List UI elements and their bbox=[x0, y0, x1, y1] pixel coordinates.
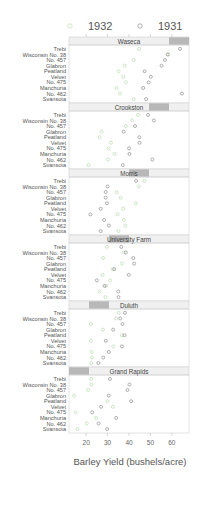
strip-label: University Farm bbox=[107, 236, 151, 244]
strip-label: Morris bbox=[120, 170, 138, 177]
point-1931 bbox=[133, 262, 136, 265]
point-1931 bbox=[117, 296, 120, 299]
panel-box bbox=[69, 111, 189, 169]
point-1932 bbox=[73, 394, 76, 397]
point-1932 bbox=[138, 47, 141, 50]
point-1932 bbox=[90, 362, 93, 365]
point-1932 bbox=[90, 350, 93, 353]
strip-shade bbox=[149, 103, 169, 110]
point-1932 bbox=[117, 311, 120, 314]
point-1932 bbox=[106, 400, 109, 403]
point-1931 bbox=[100, 405, 103, 408]
point-1931 bbox=[164, 59, 167, 62]
variety-label: Svansota bbox=[43, 426, 67, 432]
point-1931 bbox=[122, 130, 125, 133]
panel-box bbox=[69, 45, 189, 103]
point-1931 bbox=[99, 207, 102, 210]
legend-1932-label: 1932 bbox=[88, 20, 112, 32]
point-1931 bbox=[115, 416, 118, 419]
strip-label: Crookston bbox=[115, 104, 144, 111]
point-1931 bbox=[130, 400, 133, 403]
point-1931 bbox=[120, 245, 123, 248]
point-1931 bbox=[102, 356, 105, 359]
dot-plot-chart: 1932 1931 WasecaTrebiWisconsin No. 38No.… bbox=[0, 0, 199, 508]
point-1931 bbox=[126, 389, 129, 392]
point-1931 bbox=[128, 383, 131, 386]
point-1931 bbox=[107, 394, 110, 397]
point-1931 bbox=[106, 185, 109, 188]
point-1931 bbox=[89, 213, 92, 216]
point-1931 bbox=[108, 377, 111, 380]
point-1932 bbox=[104, 296, 107, 299]
panels: WasecaTrebiWisconsin No. 38No. 457Glabro… bbox=[22, 34, 189, 433]
point-1931 bbox=[180, 92, 183, 95]
point-1932 bbox=[89, 323, 92, 326]
point-1931 bbox=[121, 323, 124, 326]
point-1932 bbox=[119, 92, 122, 95]
point-1931 bbox=[142, 86, 145, 89]
strip-label: Grand Rapids bbox=[110, 368, 149, 376]
point-1931 bbox=[99, 230, 102, 233]
point-1932 bbox=[115, 317, 118, 320]
strip-shade bbox=[89, 301, 109, 308]
point-1931 bbox=[121, 164, 124, 167]
point-1931 bbox=[107, 350, 110, 353]
point-1931 bbox=[127, 273, 130, 276]
point-1932 bbox=[123, 64, 126, 67]
point-1932 bbox=[124, 224, 127, 227]
point-1931 bbox=[91, 411, 94, 414]
point-1931 bbox=[106, 428, 109, 431]
x-tick-label: 20 bbox=[83, 439, 91, 446]
point-1932 bbox=[95, 416, 98, 419]
point-1931 bbox=[97, 422, 100, 425]
point-1932 bbox=[105, 245, 108, 248]
point-1931 bbox=[123, 311, 126, 314]
point-1932 bbox=[98, 290, 101, 293]
variety-label: Svansota bbox=[43, 360, 67, 366]
variety-label: Svansota bbox=[43, 162, 67, 168]
panel-box bbox=[69, 177, 189, 235]
point-1932 bbox=[117, 230, 120, 233]
point-1932 bbox=[111, 405, 114, 408]
point-1932 bbox=[87, 389, 90, 392]
point-1932 bbox=[102, 257, 105, 260]
point-1932 bbox=[115, 86, 118, 89]
point-1931 bbox=[134, 125, 137, 128]
point-1931 bbox=[120, 345, 123, 348]
point-1931 bbox=[95, 279, 98, 282]
variety-label: Svansota bbox=[43, 96, 67, 102]
point-1932 bbox=[85, 422, 88, 425]
point-1931 bbox=[138, 141, 141, 144]
point-1931 bbox=[143, 70, 146, 73]
point-1932 bbox=[134, 202, 137, 205]
point-1931 bbox=[138, 136, 141, 139]
legend: 1932 1931 bbox=[68, 20, 183, 32]
x-tick-label: 40 bbox=[125, 439, 133, 446]
strip-label: Duluth bbox=[120, 302, 139, 309]
point-1932 bbox=[137, 113, 140, 116]
point-1932 bbox=[119, 196, 122, 199]
strip-shade bbox=[69, 367, 89, 374]
point-1932 bbox=[117, 70, 120, 73]
point-1931 bbox=[104, 339, 107, 342]
point-1932 bbox=[122, 218, 125, 221]
panel-waseca: WasecaTrebiWisconsin No. 38No. 457Glabro… bbox=[22, 37, 189, 103]
x-axis-label: Barley Yield (bushels/acre) bbox=[74, 456, 187, 467]
point-1932 bbox=[90, 383, 93, 386]
x-tick-label: 30 bbox=[104, 439, 112, 446]
point-1931 bbox=[179, 47, 182, 50]
point-1931 bbox=[117, 290, 120, 293]
point-1932 bbox=[76, 428, 79, 431]
panel-university-farm: University FarmTrebiWisconsin No. 38No. … bbox=[22, 235, 189, 301]
x-axis: 2030405060 bbox=[83, 433, 176, 446]
point-1931 bbox=[152, 119, 155, 122]
legend-1931-marker-icon bbox=[138, 24, 142, 28]
point-1931 bbox=[145, 98, 148, 101]
panel-box bbox=[69, 309, 189, 367]
point-1931 bbox=[160, 64, 163, 67]
point-1932 bbox=[124, 81, 127, 84]
point-1931 bbox=[105, 202, 108, 205]
point-1932 bbox=[98, 136, 101, 139]
plot-svg: 1932 1931 WasecaTrebiWisconsin No. 38No.… bbox=[0, 0, 199, 508]
point-1931 bbox=[103, 218, 106, 221]
